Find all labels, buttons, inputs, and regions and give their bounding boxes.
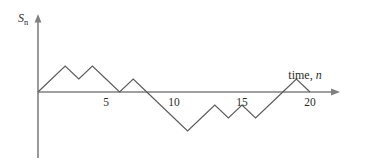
x-tick-label-5: 5	[103, 96, 109, 108]
x-tick-labels: 5101520	[103, 96, 316, 108]
x-tick-label-15: 15	[236, 96, 248, 108]
x-axis-label-text: time,	[288, 68, 315, 82]
x-tick-label-10: 10	[168, 96, 180, 108]
random-walk-figure: 5101520 Sn time, n	[0, 0, 378, 165]
x-axis-arrowhead	[331, 88, 340, 95]
y-axis-arrowhead	[35, 14, 42, 23]
x-axis-label: time, n	[288, 68, 321, 82]
x-axis-label-var: n	[316, 68, 322, 82]
y-axis-label-subscript: n	[24, 17, 29, 27]
y-axis-label: Sn	[18, 11, 29, 27]
x-tick-label-20: 20	[304, 96, 316, 108]
